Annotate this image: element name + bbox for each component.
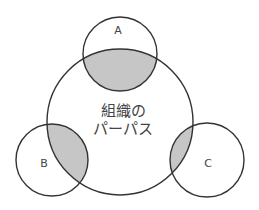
label-a: A [114,24,122,37]
label-c: C [204,157,212,170]
venn-diagram: A B C 組織の パーパス [0,0,259,210]
center-label-line1: 組織の [101,102,146,120]
label-b: B [40,157,48,170]
center-label-line2: パーパス [93,120,153,138]
